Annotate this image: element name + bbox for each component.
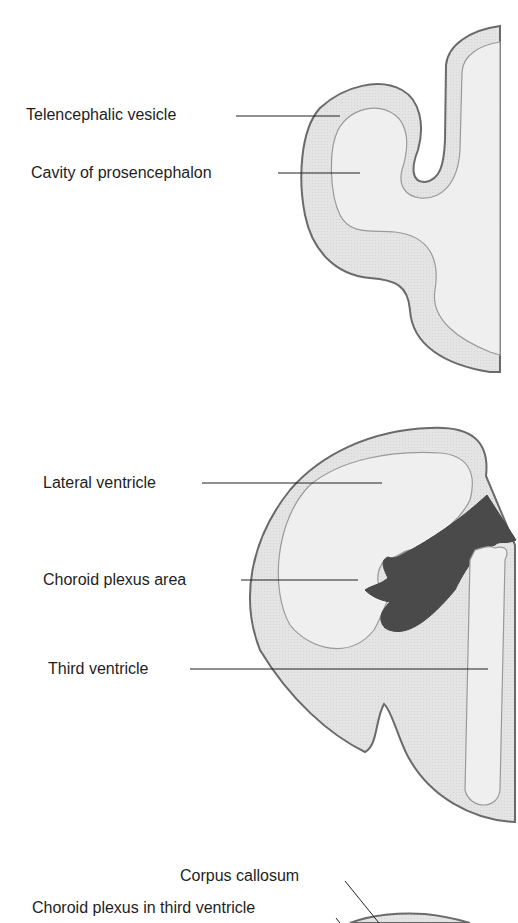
leader-line bbox=[336, 918, 340, 923]
leader-line bbox=[345, 881, 379, 923]
label-third-ventricle: Third ventricle bbox=[48, 660, 148, 678]
label-cavity-of-prosencephalon: Cavity of prosencephalon bbox=[31, 164, 212, 182]
brain-development-diagram bbox=[0, 0, 518, 923]
label-lateral-ventricle: Lateral ventricle bbox=[43, 474, 156, 492]
panel-a-vesicle-illustration bbox=[236, 26, 500, 372]
panel-c-illustration bbox=[336, 881, 470, 923]
label-choroid-plexus-third-ventricle: Choroid plexus in third ventricle bbox=[32, 899, 255, 917]
label-telencephalic-vesicle: Telencephalic vesicle bbox=[26, 106, 176, 124]
panel-b-ventricle-illustration bbox=[190, 428, 516, 822]
label-choroid-plexus-area: Choroid plexus area bbox=[43, 571, 186, 589]
label-corpus-callosum: Corpus callosum bbox=[180, 867, 299, 885]
